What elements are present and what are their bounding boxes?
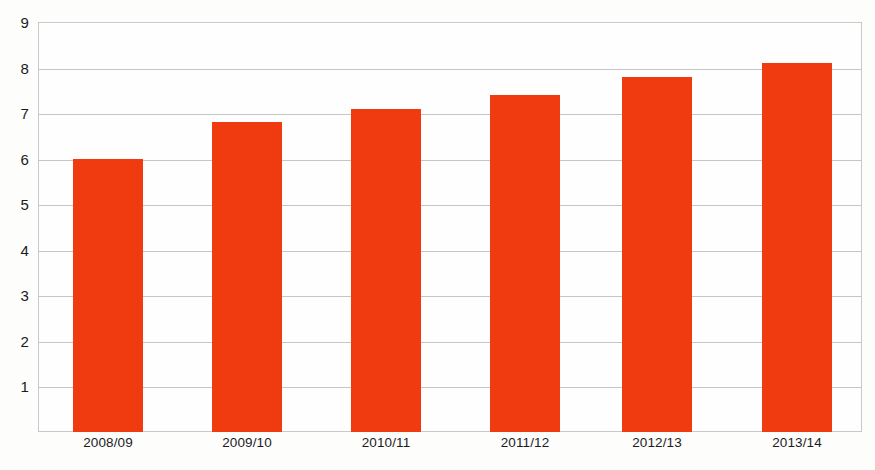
x-tick-label-2012-13: 2012/13 [632, 436, 682, 451]
x-tick-label-2009-10: 2009/10 [222, 436, 272, 451]
x-tick-label-2010-11: 2010/11 [362, 436, 411, 451]
x-tick-label-2013-14: 2013/14 [772, 436, 822, 451]
bar-2013-14[interactable] [762, 63, 832, 432]
y-axis: 9 8 7 6 5 4 3 2 1 [0, 0, 38, 470]
y-tick-label-9: 9 [20, 15, 29, 30]
x-tick-label-2011-12: 2011/12 [501, 436, 550, 451]
x-tick-label-2008-09: 2008/09 [83, 436, 133, 451]
y-tick-label-7: 7 [20, 106, 29, 121]
bar-2011-12[interactable] [490, 95, 560, 432]
y-tick-label-1: 1 [20, 379, 29, 394]
y-tick-label-2: 2 [20, 333, 29, 348]
bar-2009-10[interactable] [212, 122, 282, 432]
y-tick-label-6: 6 [20, 151, 29, 166]
bar-2012-13[interactable] [622, 77, 692, 432]
bar-chart-figure: 9 8 7 6 5 4 3 2 1 2008/09 2009/10 2010/1… [0, 0, 875, 470]
y-tick-label-8: 8 [20, 60, 29, 75]
y-tick-label-4: 4 [20, 242, 29, 257]
x-axis: 2008/09 2009/10 2010/11 2011/12 2012/13 … [38, 436, 862, 470]
y-tick-label-5: 5 [20, 197, 29, 212]
bar-2010-11[interactable] [351, 109, 421, 432]
bar-2008-09[interactable] [73, 159, 143, 432]
y-tick-label-3: 3 [20, 288, 29, 303]
bars-layer [38, 22, 862, 432]
